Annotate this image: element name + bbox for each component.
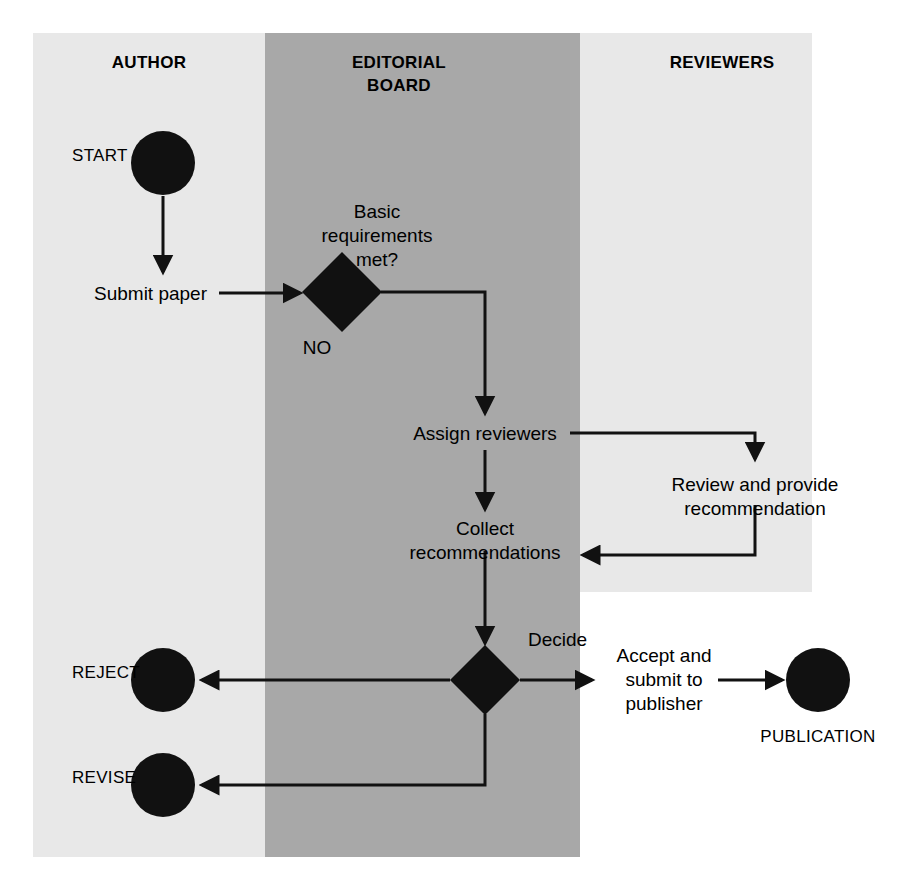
start-label: START — [72, 146, 128, 165]
accept-and-submit-label-line2: submit to — [625, 669, 702, 690]
basic-requirements-label-line3: met? — [356, 249, 398, 270]
assign-reviewers-label: Assign reviewers — [413, 423, 557, 444]
node-publication[interactable]: PUBLICATION — [760, 648, 875, 746]
lane-author-title: AUTHOR — [112, 53, 187, 72]
start-terminator-circle[interactable] — [131, 131, 195, 195]
collect-recommendations-label-line1: Collect — [456, 518, 515, 539]
node-submit-paper[interactable]: Submit paper — [94, 283, 208, 304]
peer-review-swimlane-flowchart: AUTHOR EDITORIAL BOARD REVIEWERS START S… — [0, 0, 899, 887]
accept-and-submit-label-line3: publisher — [625, 693, 703, 714]
basic-requirements-label-line1: Basic — [354, 201, 400, 222]
basic-requirements-branch-no-label: NO — [303, 337, 332, 358]
flowchart-canvas: AUTHOR EDITORIAL BOARD REVIEWERS START S… — [0, 0, 899, 887]
lane-editorial-board-title-line2: BOARD — [367, 76, 431, 95]
review-and-provide-label-line1: Review and provide — [672, 474, 839, 495]
lane-editorial-board-background — [265, 33, 580, 857]
publication-terminator-circle[interactable] — [786, 648, 850, 712]
revise-terminator-circle[interactable] — [131, 753, 195, 817]
reject-label: REJECT — [72, 663, 140, 682]
publication-label: PUBLICATION — [760, 727, 875, 746]
lane-reviewers-title: REVIEWERS — [670, 53, 775, 72]
node-accept-and-submit[interactable]: Accept and submit to publisher — [616, 645, 711, 714]
reject-terminator-circle[interactable] — [131, 648, 195, 712]
review-and-provide-label-line2: recommendation — [684, 498, 826, 519]
submit-paper-label: Submit paper — [94, 283, 208, 304]
collect-recommendations-label-line2: recommendations — [409, 542, 560, 563]
lane-editorial-board: EDITORIAL BOARD — [265, 33, 580, 857]
revise-label: REVISE — [72, 768, 136, 787]
node-assign-reviewers[interactable]: Assign reviewers — [413, 423, 557, 444]
lane-editorial-board-title-line1: EDITORIAL — [352, 53, 446, 72]
basic-requirements-label-line2: requirements — [322, 225, 433, 246]
decide-label: Decide — [528, 629, 587, 650]
accept-and-submit-label-line1: Accept and — [616, 645, 711, 666]
